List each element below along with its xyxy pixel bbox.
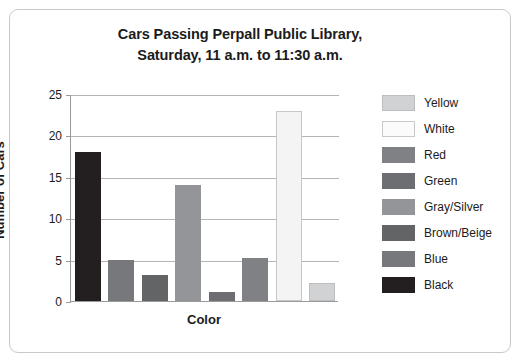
legend-item-blue: Blue xyxy=(382,246,502,272)
bar-gray-silver xyxy=(175,185,201,301)
legend-swatch-icon xyxy=(382,95,415,111)
legend-item-black: Black xyxy=(382,272,502,298)
y-axis-tick-label: 10 xyxy=(49,212,62,226)
legend-item-brown-beige: Brown/Beige xyxy=(382,220,502,246)
legend-swatch-icon xyxy=(382,173,415,189)
legend-label: Red xyxy=(424,148,446,162)
legend-swatch-icon xyxy=(382,199,415,215)
chart-title: Cars Passing Perpall Public Library, Sat… xyxy=(40,24,440,66)
bar-brown-beige xyxy=(142,275,168,301)
y-axis-tick xyxy=(66,302,71,303)
legend-item-red: Red xyxy=(382,142,502,168)
y-axis-tick-label: 5 xyxy=(55,254,62,268)
bar-green xyxy=(209,292,235,301)
chart-legend: YellowWhiteRedGreenGray/SilverBrown/Beig… xyxy=(382,90,502,298)
legend-label: White xyxy=(424,122,455,136)
bars-group xyxy=(71,94,339,301)
legend-label: Blue xyxy=(424,252,448,266)
bar-black xyxy=(75,152,101,301)
legend-item-yellow: Yellow xyxy=(382,90,502,116)
bar-white xyxy=(276,111,302,301)
y-axis-tick-label: 0 xyxy=(55,295,62,309)
legend-item-gray-silver: Gray/Silver xyxy=(382,194,502,220)
chart-title-line-1: Cars Passing Perpall Public Library, xyxy=(118,26,362,42)
plot-area: 0510152025 xyxy=(70,95,338,302)
bar-yellow xyxy=(309,283,335,301)
legend-swatch-icon xyxy=(382,277,415,293)
legend-item-white: White xyxy=(382,116,502,142)
bar-red xyxy=(242,258,268,301)
legend-label: Black xyxy=(424,278,453,292)
y-axis-tick-label: 20 xyxy=(49,129,62,143)
legend-label: Yellow xyxy=(424,96,458,110)
y-axis-tick-label: 15 xyxy=(49,171,62,185)
bar-blue xyxy=(108,260,134,301)
legend-label: Green xyxy=(424,174,457,188)
y-axis-title: Number of Cars xyxy=(0,90,7,290)
legend-swatch-icon xyxy=(382,147,415,163)
legend-swatch-icon xyxy=(382,121,415,137)
chart-title-line-2: Saturday, 11 a.m. to 11:30 a.m. xyxy=(40,45,440,66)
x-axis-title: Color xyxy=(70,312,338,327)
legend-item-green: Green xyxy=(382,168,502,194)
bar-chart-figure: Cars Passing Perpall Public Library, Sat… xyxy=(0,0,520,362)
legend-label: Brown/Beige xyxy=(424,226,492,240)
legend-swatch-icon xyxy=(382,251,415,267)
legend-swatch-icon xyxy=(382,225,415,241)
y-axis-tick-label: 25 xyxy=(49,88,62,102)
legend-label: Gray/Silver xyxy=(424,200,483,214)
